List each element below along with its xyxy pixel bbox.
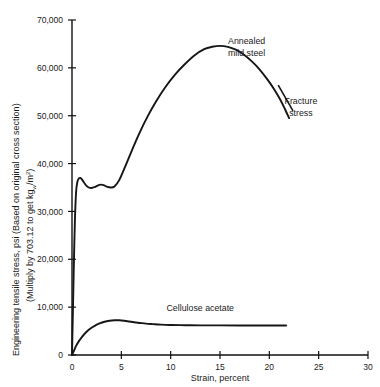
- y-axis-title-line2: (Multiply by 703.12 to get kgw/m2): [25, 169, 37, 302]
- y-axis-title-line2-post: ): [25, 169, 35, 172]
- x-tick-label: 5: [119, 362, 124, 372]
- x-tick-label: 10: [166, 362, 176, 372]
- y-tick-label: 40,000: [37, 159, 63, 169]
- y-tick-label: 50,000: [37, 111, 63, 121]
- series-line-cellulose-acetate: [72, 320, 286, 355]
- annotation-fracture-stress-line2: stress: [289, 108, 313, 118]
- x-axis-ticks: 051015202530: [70, 351, 373, 372]
- chart-canvas: Engineering tensile stress, psi (Based o…: [0, 0, 380, 387]
- x-tick-label: 30: [363, 362, 373, 372]
- y-tick-label: 60,000: [37, 63, 63, 73]
- y-axis-title-line2-pre: (Multiply by 703.12 to get kg: [25, 189, 35, 302]
- y-axis-title-line2-mid: /m: [25, 175, 35, 185]
- y-axis-title-line1: Engineering tensile stress, psi (Based o…: [11, 103, 21, 356]
- x-axis-title: Strain, percent: [191, 373, 250, 383]
- annotation-annealed-mild-steel-line2: mild steel: [228, 48, 265, 58]
- y-tick-label: 0: [58, 350, 63, 360]
- y-axis-ticks: 010,00020,00030,00040,00050,00060,00070,…: [37, 15, 76, 360]
- annotation-cellulose-acetate: Cellulose acetate: [167, 303, 235, 313]
- stress-strain-chart: Engineering tensile stress, psi (Based o…: [0, 0, 380, 387]
- annotation-annealed-mild-steel: Annealed: [228, 36, 265, 46]
- x-tick-label: 0: [70, 362, 75, 372]
- x-tick-label: 15: [215, 362, 225, 372]
- y-tick-label: 30,000: [37, 207, 63, 217]
- annotation-fracture-stress: Fracture: [285, 96, 318, 106]
- chart-annotations: Annealedmild steelFracturestressCellulos…: [167, 36, 318, 313]
- y-tick-label: 10,000: [37, 302, 63, 312]
- x-tick-label: 20: [265, 362, 275, 372]
- x-tick-label: 25: [314, 362, 324, 372]
- y-tick-label: 70,000: [37, 15, 63, 25]
- y-axis-title-group: Engineering tensile stress, psi (Based o…: [11, 103, 37, 356]
- y-tick-label: 20,000: [37, 254, 63, 264]
